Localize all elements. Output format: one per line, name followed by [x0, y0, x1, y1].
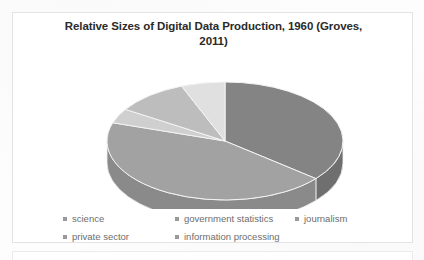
legend-item-journalism[interactable]: journalism [295, 211, 347, 227]
legend-swatch-icon [295, 217, 299, 221]
legend-swatch-icon [175, 235, 179, 239]
legend-swatch-icon [175, 217, 179, 221]
chart-title-line-2: 2011) [41, 34, 386, 49]
legend-item-label: private sector [72, 229, 129, 245]
legend-swatch-icon [63, 235, 67, 239]
legend-item-label: information processing [184, 229, 280, 245]
pie-top-slices [107, 82, 343, 200]
chart-title-line-1: Relative Sizes of Digital Data Productio… [41, 19, 386, 34]
legend-row: science government statistics journalism [45, 211, 390, 227]
pie-chart [26, 57, 401, 209]
chart-title: Relative Sizes of Digital Data Productio… [41, 19, 386, 49]
pie-chart-svg [26, 57, 401, 209]
legend-item-government-statistics[interactable]: government statistics [175, 211, 273, 227]
legend-swatch-icon [63, 217, 67, 221]
legend-item-private-sector[interactable]: private sector [63, 229, 129, 245]
lower-page-frame-fragment [12, 251, 413, 260]
chart-frame: Relative Sizes of Digital Data Productio… [12, 12, 413, 243]
legend-row: private sector information processing [45, 229, 390, 245]
legend-item-information-processing[interactable]: information processing [175, 229, 280, 245]
legend-item-label: government statistics [184, 211, 273, 227]
legend-item-label: journalism [304, 211, 347, 227]
chart-legend: science government statistics journalism… [45, 211, 390, 249]
legend-item-label: science [72, 211, 104, 227]
legend-item-science[interactable]: science [63, 211, 104, 227]
